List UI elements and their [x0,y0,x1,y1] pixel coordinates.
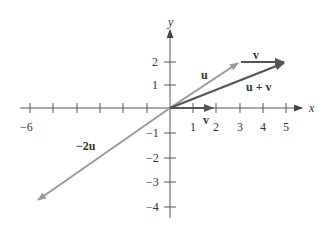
label-v-axis: v [203,113,209,127]
label-u: u [201,68,208,82]
x-tick-label-neg6: −6 [20,120,33,134]
y-tick-label-neg3: −3 [146,175,159,189]
y-axis-label: y [167,15,174,29]
x-tick-label-3: 3 [237,120,243,134]
label-v-top: v [253,48,259,62]
y-tick-label-1: 1 [152,78,158,92]
vector-diagram: x y −6 1 2 3 4 5 2 1 −1 −2 −3 −4 u v u +… [0,0,331,234]
x-tick-label-1: 1 [190,120,196,134]
x-tick-label-2: 2 [213,120,219,134]
x-tick-label-5: 5 [283,120,289,134]
label-neg2u: −2u [76,139,96,153]
y-tick-label-neg4: −4 [146,200,159,214]
y-tick-label-2: 2 [152,55,158,69]
y-tick-label-neg2: −2 [146,151,159,165]
label-u-plus-v: u + v [246,80,272,94]
x-tick-label-4: 4 [260,120,266,134]
x-axis-label: x [308,101,315,115]
y-tick-label-neg1: −1 [146,126,159,140]
